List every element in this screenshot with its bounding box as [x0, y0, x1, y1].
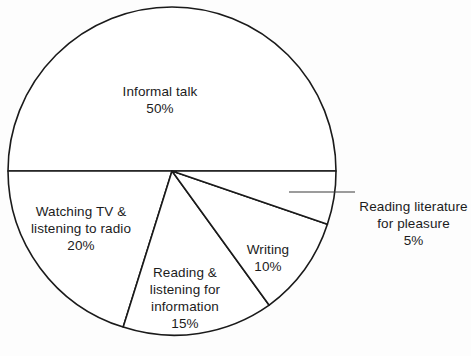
pie-slice-informal-talk [8, 7, 336, 171]
pie-chart-canvas [0, 0, 471, 356]
pie-slices [8, 7, 336, 335]
pie-chart-figure: Informal talk 50% Watching TV & listenin… [0, 0, 471, 356]
